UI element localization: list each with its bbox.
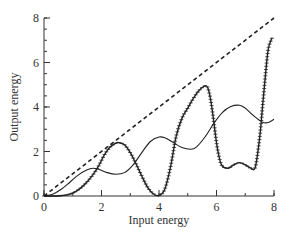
- y-tick-label: 4: [33, 100, 39, 114]
- y-tick-label: 0: [33, 189, 39, 203]
- series-reference-y-x: [44, 18, 274, 196]
- y-axis-label: Output energy: [7, 73, 21, 142]
- x-axis-label: Input energy: [129, 213, 190, 227]
- y-tick-label: 8: [33, 11, 39, 25]
- cross-markers: [42, 38, 274, 196]
- series-marked-curve: [44, 38, 272, 196]
- chart: 0246802468 Input energy Output energy: [0, 0, 293, 244]
- x-tick-label: 8: [271, 200, 277, 214]
- y-tick-label: 6: [33, 56, 39, 70]
- x-tick-label: 0: [41, 200, 47, 214]
- y-tick-label: 2: [33, 145, 39, 159]
- axes: 0246802468: [33, 11, 277, 214]
- series-layer: [42, 18, 274, 196]
- series-solid-curve: [44, 105, 274, 196]
- x-tick-label: 2: [99, 200, 105, 214]
- x-tick-label: 4: [156, 200, 162, 214]
- x-tick-label: 6: [214, 200, 220, 214]
